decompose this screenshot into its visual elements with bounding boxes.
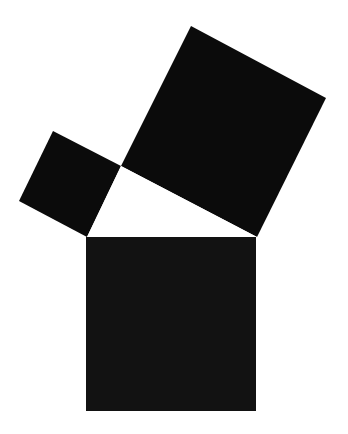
square-hypotenuse — [86, 237, 256, 411]
pythagorean-diagram — [0, 0, 348, 434]
